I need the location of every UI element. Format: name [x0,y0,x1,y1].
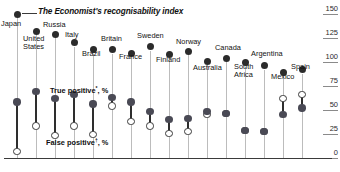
recognisability-index-marker [147,43,154,50]
true-positive-marker [146,108,153,115]
country-label: Japan [1,20,21,28]
true-positive-marker [13,98,20,105]
true-positive-marker [165,116,172,123]
y-tick-mark [323,86,338,87]
y-tick-mark [323,38,338,39]
false-positive-marker [298,91,305,98]
y-tick-label: 100 [322,53,338,61]
y-tick-mark [323,110,338,111]
country-label: Russia [43,21,66,29]
country-guide-line [245,67,246,158]
recognisability-index-marker [71,39,78,46]
chart-title: The Economist's recognisability index [38,7,183,16]
y-tick-label: 150 [322,5,338,13]
true-positive-marker [260,128,267,135]
y-tick-mark [323,134,338,135]
country-guide-line [169,58,170,158]
country-label: Argentina [251,50,283,58]
true-false-connector [92,104,94,135]
true-positive-marker [222,110,229,117]
title-leader-line [22,13,37,14]
country-label: Brazil [82,50,100,58]
y-tick-label: 125 [322,29,338,37]
country-label: South Africa [234,63,260,79]
country-guide-line [150,51,151,158]
y-tick-label: 50 [322,101,338,109]
country-label: France [119,53,142,61]
y-tick-mark [323,62,338,63]
country-guide-line [188,55,189,158]
recognisability-index-marker [223,55,230,62]
true-positive-marker [127,98,134,105]
annotation-true-positive: True positive*, % [50,85,108,95]
y-tick-label: 0 [322,149,338,157]
true-positive-marker [51,95,58,102]
true-positive-marker [298,104,305,111]
true-positive-marker [184,115,191,122]
recognisability-index-marker [109,46,116,53]
true-positive-marker [203,108,210,115]
country-label: Norway [176,38,201,46]
y-tick-mark [323,14,338,15]
recognisability-index-chart: The Economist's recognisability index 15… [0,0,340,172]
false-positive-marker [165,130,172,137]
true-false-connector [35,92,37,126]
country-guide-line [302,74,303,158]
country-label: Mexico [271,73,294,81]
false-positive-marker [146,122,153,129]
country-guide-line [264,70,265,158]
country-label: Canada [215,44,241,52]
country-label: Spain [291,63,310,71]
true-positive-marker [32,88,39,95]
recognisability-index-marker [52,31,59,38]
country-label: Finland [156,56,180,64]
y-tick-label: 75 [322,77,338,85]
true-positive-marker [108,94,115,101]
false-positive-marker [184,128,191,135]
true-false-connector [54,98,56,135]
true-positive-marker [89,100,96,107]
true-positive-marker [241,127,248,134]
false-positive-marker [127,118,134,125]
x-axis-baseline [4,158,332,159]
country-label: Sweden [137,32,164,40]
y-tick-label: 25 [322,125,338,133]
true-false-connector [16,102,18,152]
country-label: United States [23,35,49,51]
false-positive-marker [32,122,39,129]
annotation-false-positive: False positive†, % [46,137,108,147]
false-positive-marker [13,148,20,155]
false-positive-marker [70,122,77,129]
recognisability-index-marker [185,48,192,55]
country-label: Italy [65,31,79,39]
false-positive-marker [279,95,286,102]
true-false-connector [73,94,75,126]
country-label: Australia [193,64,222,72]
recognisability-index-marker [14,11,21,18]
recognisability-index-marker [261,62,268,69]
country-label: Britain [101,35,122,43]
true-positive-marker [279,111,286,118]
false-positive-marker [108,102,115,109]
